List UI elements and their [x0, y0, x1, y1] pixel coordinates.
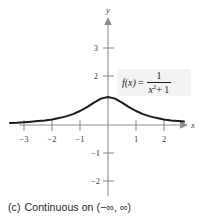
y-tick-label-2: 2: [94, 71, 98, 81]
caption-text: Continuous on (−∞, ∞): [25, 201, 132, 213]
x-tick-label-1: 1: [134, 134, 138, 144]
x-axis-label: x: [190, 120, 195, 130]
formula-denominator-rest: + 1: [156, 84, 169, 95]
formula-fraction: 1 x2+ 1: [147, 71, 172, 95]
formula-numerator: 1: [153, 71, 164, 82]
y-tick-label--1: −1: [91, 148, 100, 158]
y-axis-arrow-icon: [104, 17, 112, 25]
x-tick-label-2: 2: [162, 134, 166, 144]
x-tick-label--2: −2: [47, 134, 56, 144]
x-tick-label--3: −3: [19, 134, 28, 144]
function-curve: [10, 97, 184, 123]
formula-denominator: x2+ 1: [147, 83, 172, 96]
formula-lhs: f(x): [122, 78, 136, 88]
caption-label: (c): [8, 201, 21, 213]
figure-caption: (c)Continuous on (−∞, ∞): [8, 201, 131, 213]
plot-area: −3 −2 −1 1 2 3 2 −1 −2 y x f(x) = 1 x2+ …: [0, 0, 205, 196]
formula-equals: =: [138, 78, 144, 88]
y-tick-label--2: −2: [91, 176, 100, 186]
function-formula: f(x) = 1 x2+ 1: [122, 71, 171, 95]
y-tick-label-3: 3: [94, 43, 98, 53]
x-tick-label--1: −1: [75, 134, 84, 144]
figure-container: −3 −2 −1 1 2 3 2 −1 −2 y x f(x) = 1 x2+ …: [0, 0, 205, 222]
y-axis-label: y: [105, 5, 110, 15]
graph-svg: −3 −2 −1 1 2 3 2 −1 −2 y x: [0, 0, 205, 196]
